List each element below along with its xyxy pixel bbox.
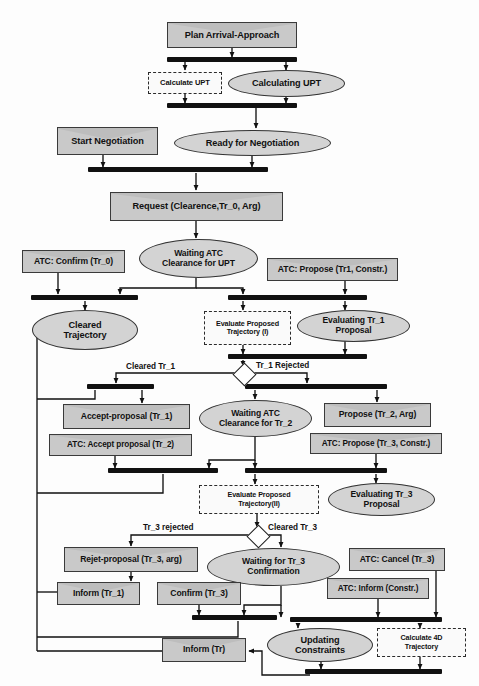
node-calculate-upt[interactable]: Calculate UPT — [148, 72, 222, 94]
node-label-line1: Cleared — [68, 320, 101, 330]
node-evaluating-tr3-proposal[interactable]: Evaluating Tr_3 Proposal — [328, 483, 435, 516]
node-label-line2: Trajectory — [405, 643, 438, 651]
node-request-clearance[interactable]: Request (Clearence,Tr_0, Arg) — [110, 192, 283, 221]
node-label: ATC: Confirm (Tr_0) — [31, 257, 116, 267]
node-label: ATC: Cancel (Tr_3) — [357, 555, 437, 565]
node-reject-proposal-tr3[interactable]: Rejet-proposal (Tr_3, arg) — [64, 547, 198, 572]
edge-label-tr1-rejected: Tr_1 Rejected — [256, 361, 309, 370]
node-label: Inform (Tr_1) — [70, 589, 127, 599]
node-label: Start Negotiation — [68, 136, 146, 146]
node-waiting-atc-clearance-tr2[interactable]: Waiting ATC Clearance for Tr_2 — [199, 400, 312, 437]
join-bar-9 — [108, 468, 218, 473]
node-atc-inform-constr[interactable]: ATC: Inform (Constr.) — [327, 578, 429, 599]
node-label: Calculate UPT — [160, 79, 210, 88]
node-label-line2: Proposal — [336, 326, 372, 336]
join-bar-2 — [167, 103, 297, 108]
node-plan-arrival-approach[interactable]: Plan Arrival-Approach — [167, 22, 297, 48]
node-atc-cancel-tr3[interactable]: ATC: Cancel (Tr_3) — [349, 548, 445, 571]
edge-label-tr3-rejected: Tr_3 rejected — [143, 523, 194, 532]
node-confirm-tr3[interactable]: Confirm (Tr_3) — [157, 582, 241, 605]
join-bar-11 — [192, 615, 277, 620]
fork-bar-1 — [167, 57, 297, 62]
node-label-line2: Constraints — [295, 645, 345, 655]
edge-label-cleared-tr3: Cleared Tr_3 — [268, 523, 317, 532]
node-label: Accept-proposal (Tr_1) — [78, 412, 175, 422]
node-label-line2: Clearance for UPT — [162, 259, 235, 269]
node-label-line2: Trajectory (I) — [227, 328, 269, 336]
node-ready-for-negotiation[interactable]: Ready for Negotiation — [174, 130, 331, 156]
flowchart-canvas: Cleared Tr_1 Tr_1 Rejected Tr_3 rejected… — [0, 0, 479, 686]
node-label: Rejet-proposal (Tr_3, arg) — [77, 555, 185, 565]
node-label-line2: Confirmation — [247, 567, 299, 577]
node-accept-proposal-tr1[interactable]: Accept-proposal (Tr_1) — [63, 404, 190, 429]
join-bar-6 — [228, 354, 367, 359]
node-inform-tr[interactable]: Inform (Tr) — [162, 638, 246, 662]
node-label: Ready for Negotiation — [206, 138, 299, 148]
node-label-line1: Updating — [300, 635, 339, 645]
node-label: Plan Arrival-Approach — [182, 30, 283, 40]
fork-bar-8 — [245, 384, 387, 389]
join-bar-13 — [305, 669, 442, 674]
node-cleared-trajectory[interactable]: Cleared Trajectory — [32, 310, 138, 350]
node-waiting-tr3-confirmation[interactable]: Waiting for Tr_3 Confirmation — [207, 548, 340, 586]
node-atc-accept-proposal-tr2[interactable]: ATC: Accept proposal (Tr_2) — [49, 434, 192, 456]
node-label: Confirm (Tr_3) — [167, 589, 230, 599]
node-updating-constraints[interactable]: Updating Constraints — [267, 628, 373, 662]
node-label: Inform (Tr) — [180, 645, 228, 655]
node-waiting-atc-clearance-upt[interactable]: Waiting ATC Clearance for UPT — [139, 239, 258, 278]
edge-label-cleared-tr1: Cleared Tr_1 — [126, 362, 175, 371]
node-label: ATC: Inform (Constr.) — [335, 584, 422, 593]
node-inform-tr1[interactable]: Inform (Tr_1) — [57, 582, 140, 605]
join-bar-3 — [88, 167, 268, 172]
node-label-line2: Proposal — [364, 500, 400, 510]
join-bar-5 — [228, 295, 367, 300]
node-calculating-upt[interactable]: Calculating UPT — [228, 70, 345, 97]
join-bar-4 — [31, 295, 138, 300]
node-atc-propose-tr1[interactable]: ATC: Propose (Tr1, Constr.) — [267, 258, 398, 281]
node-start-negotiation[interactable]: Start Negotiation — [57, 127, 158, 155]
node-atc-propose-tr3[interactable]: ATC: Propose (Tr_3, Constr.) — [310, 433, 442, 454]
node-propose-tr2-arg[interactable]: Propose (Tr_2, Arg) — [324, 403, 431, 427]
node-evaluate-proposed-trajectory-2[interactable]: Evaluate Proposed Trajectory(II) — [199, 485, 319, 514]
node-calculate-4d-trajectory[interactable]: Calculate 4D Trajectory — [377, 628, 466, 657]
node-label: ATC: Propose (Tr_3, Constr.) — [319, 439, 434, 448]
fork-bar-10 — [245, 468, 387, 473]
node-evaluating-tr1-proposal[interactable]: Evaluating Tr_1 Proposal — [297, 310, 410, 342]
node-label: ATC: Propose (Tr1, Constr.) — [275, 265, 390, 275]
node-atc-confirm-tr0[interactable]: ATC: Confirm (Tr_0) — [22, 250, 125, 273]
node-evaluate-proposed-trajectory-1[interactable]: Evaluate Proposed Trajectory (I) — [204, 311, 291, 345]
node-label: Propose (Tr_2, Arg) — [336, 410, 420, 420]
node-label-line2: Clearance for Tr_2 — [219, 419, 292, 429]
node-label: Request (Clearence,Tr_0, Arg) — [130, 201, 264, 211]
node-label: Calculating UPT — [252, 78, 321, 88]
fork-bar-12 — [290, 617, 442, 622]
node-label: ATC: Accept proposal (Tr_2) — [64, 440, 177, 449]
node-label-line2: Trajectory(II) — [238, 500, 280, 508]
fork-bar-7 — [87, 384, 154, 389]
node-label-line2: Trajectory — [64, 330, 107, 340]
